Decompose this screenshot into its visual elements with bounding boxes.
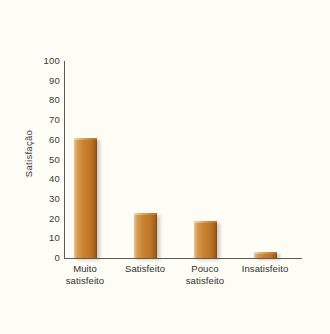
- category-label: Insatisfeito: [235, 263, 295, 275]
- y-tick-label: 80: [34, 95, 60, 105]
- y-tick-60: 60: [34, 135, 60, 145]
- category-label-line1: Pouco: [191, 263, 218, 274]
- y-tick-70: 70: [34, 115, 60, 125]
- y-tick-label: 40: [34, 174, 60, 184]
- bar: [74, 138, 97, 258]
- y-tick-40: 40: [34, 174, 60, 184]
- y-tick-80: 80: [34, 95, 60, 105]
- y-tick-10: 10: [34, 233, 60, 243]
- y-tick-label: 20: [34, 214, 60, 224]
- category-label-line1: Satisfeito: [125, 263, 165, 274]
- y-tick-label: 30: [34, 194, 60, 204]
- bar: [134, 213, 157, 258]
- y-tick-label: 50: [34, 155, 60, 165]
- category-label-line1: Muito: [73, 263, 97, 274]
- y-tick-90: 90: [34, 76, 60, 86]
- y-tick-100: 100: [34, 56, 60, 66]
- category-label-line2: satisfeito: [55, 275, 115, 287]
- y-tick-label: 100: [34, 56, 60, 66]
- y-tick-label: 70: [34, 115, 60, 125]
- y-axis-title: Satisfação: [23, 119, 34, 189]
- y-tick-30: 30: [34, 194, 60, 204]
- category-label: Muitosatisfeito: [55, 263, 115, 286]
- y-tick-20: 20: [34, 214, 60, 224]
- y-tick-label: 10: [34, 233, 60, 243]
- plot-area: Satisfação 1009080706050403020100 Muitos…: [0, 0, 330, 334]
- y-tick-50: 50: [34, 155, 60, 165]
- y-tick-0: 0: [34, 253, 60, 263]
- category-label: Satisfeito: [115, 263, 175, 275]
- y-tick-label: 0: [34, 253, 60, 263]
- category-label: Poucosatisfeito: [175, 263, 235, 286]
- bar: [194, 221, 217, 258]
- category-label-line2: satisfeito: [175, 275, 235, 287]
- y-axis-line: [64, 61, 65, 259]
- x-axis-line: [64, 258, 302, 259]
- category-label-line1: Insatisfeito: [242, 263, 289, 274]
- bar: [254, 252, 277, 258]
- y-tick-label: 90: [34, 76, 60, 86]
- satisfaction-bar-chart: Satisfação 1009080706050403020100 Muitos…: [0, 0, 330, 334]
- y-tick-label: 60: [34, 135, 60, 145]
